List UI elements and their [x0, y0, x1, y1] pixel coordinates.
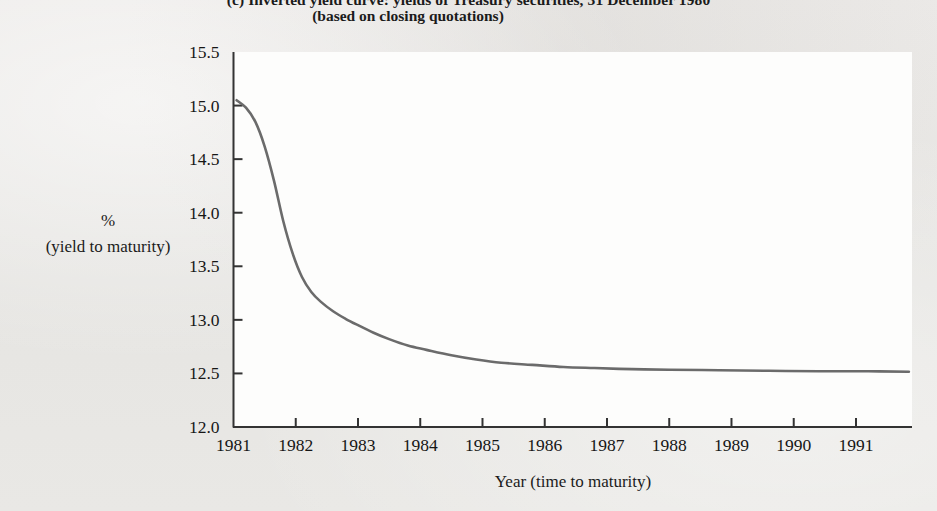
- y-axis-tick-label: 15.0: [156, 96, 220, 117]
- x-axis-tick-label: 1981: [199, 435, 269, 456]
- x-axis-tick-label: 1986: [510, 435, 580, 456]
- y-axis-tick-label: 15.5: [156, 42, 220, 63]
- x-axis-tick-label: 1987: [572, 435, 642, 456]
- y-axis-tick-label: 13.0: [156, 310, 220, 331]
- figure-subtitle: (based on closing quotations): [128, 7, 688, 25]
- x-axis-tick-label: 1988: [634, 435, 704, 456]
- x-axis-tick-label: 1983: [323, 435, 393, 456]
- x-axis-tick-label: 1990: [759, 435, 829, 456]
- y-axis-tick-label: 13.5: [156, 256, 220, 277]
- y-axis-tick-label: 14.5: [156, 149, 220, 170]
- x-axis-tick-label: 1991: [821, 435, 891, 456]
- x-axis-tick-label: 1982: [261, 435, 331, 456]
- plot-area: [233, 52, 912, 427]
- x-axis-title: Year (time to maturity): [233, 472, 913, 492]
- x-axis-tick-label: 1989: [696, 435, 766, 456]
- x-axis-tick-label: 1984: [385, 435, 455, 456]
- y-axis-tick-label: 14.0: [156, 203, 220, 224]
- y-axis-tick-label: 12.5: [156, 363, 220, 384]
- x-axis-tick-label: 1985: [447, 435, 517, 456]
